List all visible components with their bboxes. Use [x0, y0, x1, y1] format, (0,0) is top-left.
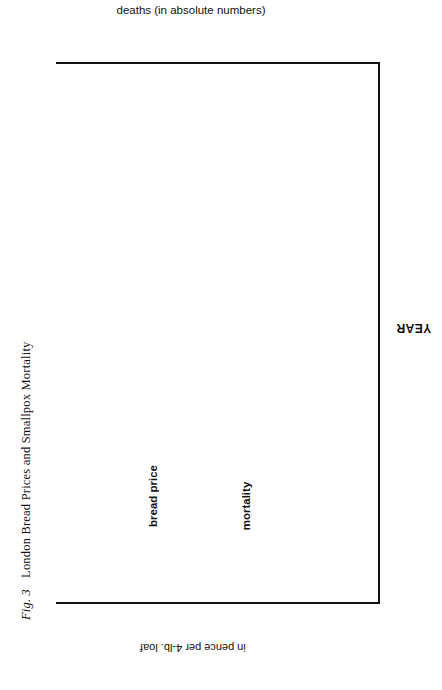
figure-caption-text: London Bread Prices and Smallpox Mortali…: [19, 341, 34, 578]
figure-page: deaths (in absolute numbers) Fig. 3 Lond…: [0, 0, 442, 690]
figure-number: Fig. 3: [19, 589, 34, 620]
bread-price-annotation: bread price: [122, 486, 184, 504]
year-axis-title: YEAR: [396, 318, 431, 336]
figure-caption: Fig. 3 London Bread Prices and Smallpox …: [6, 60, 46, 620]
price-axis-title: in pence per 4-lb. loaf: [0, 638, 442, 656]
mortality-annotation: mortality: [222, 496, 271, 514]
deaths-axis-title: deaths (in absolute numbers): [0, 4, 442, 16]
chart-plot-area: [56, 62, 380, 603]
